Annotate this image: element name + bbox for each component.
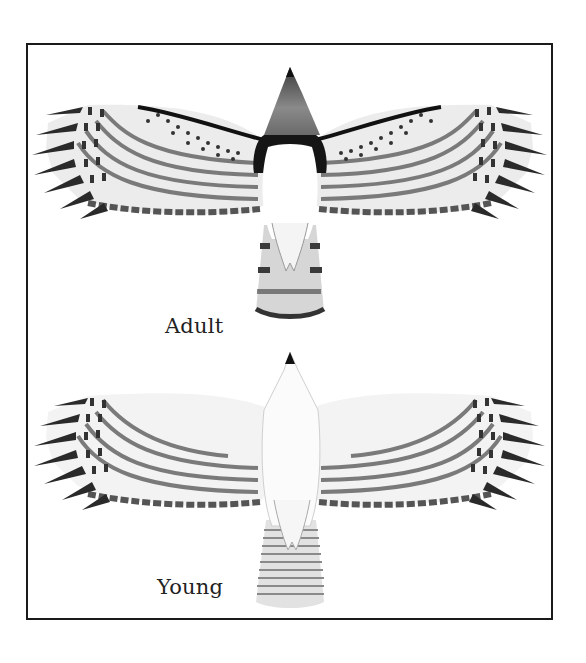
- young-label: Young: [157, 575, 223, 599]
- young-body: [262, 352, 320, 550]
- young-right-wing: [311, 393, 545, 510]
- young-left-wing: [34, 393, 268, 510]
- adult-label: Adult: [165, 314, 223, 338]
- young-hawk-illustration: [28, 350, 551, 612]
- adult-left-wing: [32, 105, 268, 219]
- adult-hawk-illustration: [28, 63, 551, 325]
- illustration-plate-frame: Adult: [26, 43, 553, 620]
- adult-right-wing: [311, 105, 547, 219]
